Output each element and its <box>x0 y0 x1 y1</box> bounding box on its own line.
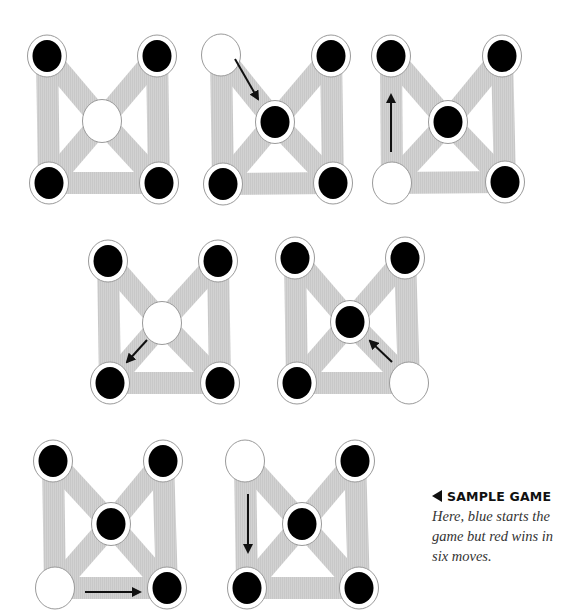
black-piece-icon <box>94 245 123 277</box>
black-piece-icon <box>391 242 420 274</box>
black-piece-icon <box>283 367 312 399</box>
node-tr[interactable] <box>386 237 425 279</box>
node-bl[interactable] <box>204 163 243 205</box>
black-piece-icon <box>204 245 233 277</box>
left-triangle-icon <box>432 490 442 502</box>
black-piece-icon <box>97 508 126 540</box>
node-tl[interactable] <box>226 440 265 482</box>
board-step-2 <box>202 34 353 205</box>
black-piece-icon <box>35 167 64 199</box>
black-piece-icon <box>209 168 238 200</box>
node-br[interactable] <box>340 567 379 609</box>
caption-title: SAMPLE GAME <box>432 489 572 504</box>
node-ring <box>390 362 429 404</box>
node-tl[interactable] <box>89 240 128 282</box>
black-piece-icon <box>39 445 68 477</box>
node-ring <box>36 567 75 609</box>
board-step-6 <box>34 440 187 609</box>
sample-game-caption: SAMPLE GAME Here, blue starts the game b… <box>432 489 572 566</box>
board-step-5 <box>276 237 429 404</box>
black-piece-icon <box>143 40 172 72</box>
black-piece-icon <box>491 166 520 198</box>
node-tr[interactable] <box>336 440 375 482</box>
node-c[interactable] <box>283 503 322 546</box>
node-c[interactable] <box>83 100 122 143</box>
node-c[interactable] <box>92 503 131 546</box>
node-c[interactable] <box>331 301 370 344</box>
node-br[interactable] <box>390 362 429 404</box>
board-step-1 <box>28 35 179 204</box>
node-bl[interactable] <box>278 362 317 404</box>
node-tr[interactable] <box>144 440 183 482</box>
node-bl[interactable] <box>36 567 75 609</box>
node-br[interactable] <box>201 362 240 404</box>
node-c[interactable] <box>429 101 468 144</box>
board-step-7 <box>226 440 379 609</box>
node-tl[interactable] <box>202 34 241 76</box>
node-ring <box>373 162 412 204</box>
black-piece-icon <box>488 40 517 72</box>
node-br[interactable] <box>140 162 179 204</box>
node-tl[interactable] <box>34 440 73 482</box>
black-piece-icon <box>341 445 370 477</box>
node-br[interactable] <box>486 161 525 203</box>
black-piece-icon <box>261 106 290 138</box>
black-piece-icon <box>336 306 365 338</box>
node-tl[interactable] <box>372 35 411 77</box>
node-c[interactable] <box>143 302 182 345</box>
node-c[interactable] <box>256 101 295 144</box>
node-bl[interactable] <box>30 162 69 204</box>
node-ring <box>202 34 241 76</box>
board-step-4 <box>89 240 240 404</box>
node-ring <box>226 440 265 482</box>
node-tr[interactable] <box>138 35 177 77</box>
black-piece-icon <box>319 167 348 199</box>
black-piece-icon <box>33 40 62 72</box>
black-piece-icon <box>149 445 178 477</box>
black-piece-icon <box>96 367 125 399</box>
caption-body: Here, blue starts the game but red wins … <box>432 506 572 566</box>
black-piece-icon <box>281 242 310 274</box>
caption-title-text: SAMPLE GAME <box>447 489 551 504</box>
node-bl[interactable] <box>373 162 412 204</box>
node-ring <box>83 100 122 143</box>
node-tr[interactable] <box>312 35 351 77</box>
black-piece-icon <box>145 167 174 199</box>
node-br[interactable] <box>314 162 353 204</box>
node-bl[interactable] <box>91 362 130 404</box>
node-tr[interactable] <box>199 240 238 282</box>
node-tl[interactable] <box>276 237 315 279</box>
node-ring <box>143 302 182 345</box>
board-step-3 <box>372 35 525 204</box>
black-piece-icon <box>233 572 262 604</box>
black-piece-icon <box>345 572 374 604</box>
node-br[interactable] <box>148 567 187 609</box>
black-piece-icon <box>206 367 235 399</box>
black-piece-icon <box>317 40 346 72</box>
black-piece-icon <box>153 572 182 604</box>
black-piece-icon <box>377 40 406 72</box>
black-piece-icon <box>434 106 463 138</box>
node-tl[interactable] <box>28 35 67 77</box>
black-piece-icon <box>288 508 317 540</box>
node-tr[interactable] <box>483 35 522 77</box>
node-bl[interactable] <box>228 567 267 609</box>
